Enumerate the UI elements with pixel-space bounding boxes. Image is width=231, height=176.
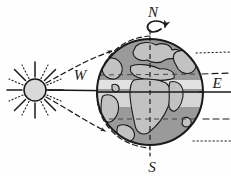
sun-earth-diagram: N S W E xyxy=(0,0,231,176)
label-north: N xyxy=(147,4,159,20)
label-east: E xyxy=(211,75,221,91)
sun-body xyxy=(24,79,46,101)
label-west: W xyxy=(74,67,88,83)
label-south: S xyxy=(148,159,156,175)
diagram-canvas: N S W E xyxy=(0,0,231,176)
